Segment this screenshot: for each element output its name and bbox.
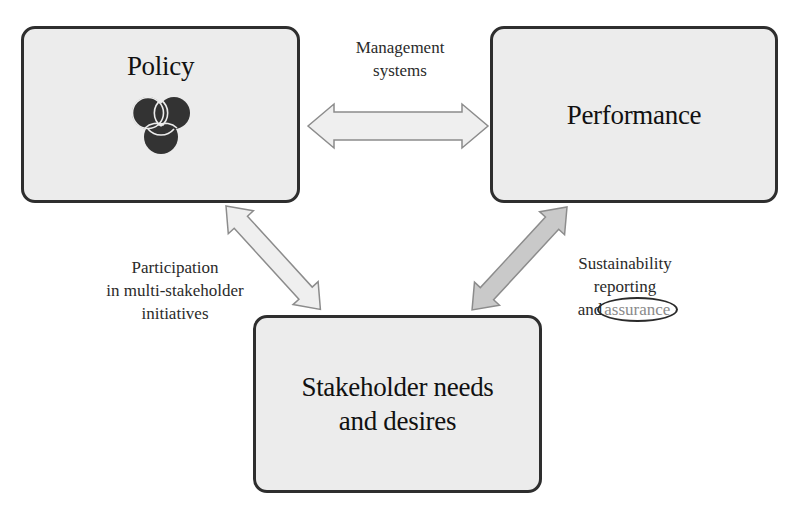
sustainability-label-line1: Sustainability: [555, 252, 695, 275]
policy-title: Policy: [127, 49, 194, 83]
performance-title: Performance: [567, 98, 702, 132]
participation-label-line2: in multi-stakeholder: [85, 279, 265, 302]
management-label-line1: Management: [340, 36, 460, 59]
participation-label-line3: initiatives: [85, 302, 265, 325]
stakeholder-box: Stakeholder needs and desires: [253, 315, 542, 493]
assurance-text: assurance: [604, 300, 670, 319]
participation-label-line1: Participation: [85, 256, 265, 279]
sustainability-label-line2: reporting: [555, 275, 695, 298]
arrow-management-systems: [308, 104, 488, 148]
venn-triquetra-icon: [131, 95, 191, 157]
stakeholder-title-line2: and desires: [339, 404, 456, 438]
sustainability-label-prefix: and: [578, 300, 603, 319]
management-label-line2: systems: [340, 59, 460, 82]
participation-label: Participation in multi-stakeholder initi…: [85, 256, 265, 325]
stakeholder-title-line1: Stakeholder needs: [301, 370, 493, 404]
performance-box: Performance: [490, 26, 778, 203]
assurance-highlight: assurance: [602, 300, 672, 319]
sustainability-label-line3: andassurance: [555, 298, 695, 321]
management-systems-label: Management systems: [340, 36, 460, 82]
sustainability-label: Sustainability reporting andassurance: [555, 252, 695, 321]
policy-box: Policy: [21, 26, 300, 203]
